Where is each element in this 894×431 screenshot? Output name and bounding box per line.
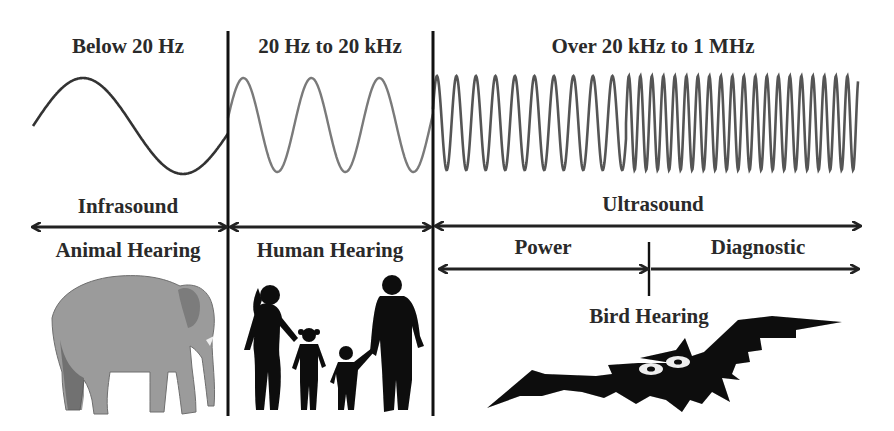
bird-hearing-label: Bird Hearing	[589, 306, 709, 327]
infrasound-wave	[33, 78, 228, 174]
bat-silhouette	[487, 316, 842, 412]
elephant-illustration	[52, 276, 215, 414]
audible-range-label: 20 Hz to 20 kHz	[258, 36, 401, 57]
diagnostic-label: Diagnostic	[711, 237, 806, 258]
frequency-spectrum-diagram: Below 20 Hz 20 Hz to 20 kHz Over 20 kHz …	[0, 0, 894, 431]
infrasound-range-label: Below 20 Hz	[72, 36, 184, 57]
infrasound-name-label: Infrasound	[78, 196, 178, 217]
ultrasound-range-label: Over 20 kHz to 1 MHz	[551, 36, 754, 57]
audible-wave	[228, 78, 433, 172]
family-silhouette	[244, 275, 424, 412]
ultrasound-wave	[433, 76, 858, 170]
animal-hearing-label: Animal Hearing	[55, 240, 200, 261]
human-hearing-label: Human Hearing	[257, 240, 403, 261]
ultrasound-name-label: Ultrasound	[602, 194, 704, 215]
power-label: Power	[514, 237, 571, 258]
